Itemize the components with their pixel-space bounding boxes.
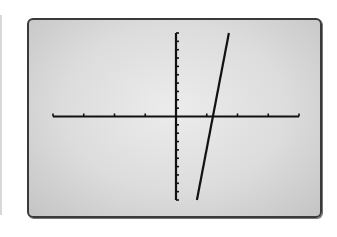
graph-plot <box>0 0 337 237</box>
